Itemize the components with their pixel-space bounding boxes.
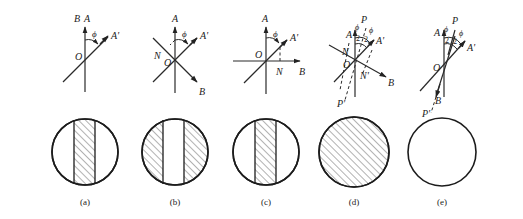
panel-a-vector-diagram: B A ϕ A' O	[63, 13, 120, 92]
panel-b-field-of-view: (b)	[140, 115, 209, 207]
label-n: N	[153, 50, 162, 61]
label-p: P	[360, 14, 367, 25]
label-half-right: 2	[364, 35, 368, 44]
label-phi-right: ϕ	[369, 26, 373, 35]
caption-a: (a)	[80, 197, 90, 207]
label-p: P	[451, 15, 458, 26]
axis-a-prime-arrow	[368, 40, 374, 46]
label-o: O	[433, 62, 440, 73]
label-o: O	[343, 59, 350, 70]
panel-c-field-of-view: (c)	[233, 115, 299, 207]
label-a: A	[171, 13, 179, 24]
label-b: B	[299, 66, 305, 77]
panel-d-field-of-view: (d)	[319, 117, 389, 207]
hatched-band	[255, 115, 276, 190]
label-a-prime: A'	[289, 32, 299, 43]
polarization-diagram-figure: B A ϕ A' O A ϕ A' N O B A ϕ A' O N B	[0, 0, 523, 219]
label-o: O	[75, 51, 82, 62]
label-phi-right: ϕ	[459, 29, 463, 38]
label-phi: ϕ	[182, 29, 187, 39]
caption-c: (c)	[261, 197, 271, 207]
label-a-prime: A'	[199, 30, 209, 41]
label-phi: ϕ	[92, 29, 97, 39]
label-n: N	[275, 66, 284, 77]
angle-arc	[85, 40, 98, 45]
label-a-prime: A'	[110, 30, 120, 41]
caption-d: (d)	[349, 197, 360, 207]
axis-a-prime-line	[420, 41, 465, 91]
label-b: B	[199, 86, 205, 97]
label-a: A	[261, 13, 269, 24]
label-phi-left: ϕ	[355, 23, 359, 32]
label-o: O	[164, 57, 171, 68]
label-phi-left: ϕ	[444, 25, 448, 34]
projection-dash	[170, 40, 175, 45]
label-half-left: 2	[356, 34, 360, 43]
panel-a-field-of-view: (a)	[52, 115, 118, 207]
label-b: B	[74, 13, 80, 24]
panel-e-field-of-view: (e)	[408, 118, 476, 207]
axis-a-prime-arrow	[100, 36, 108, 44]
label-half-right: 2	[453, 37, 457, 46]
caption-b: (b)	[170, 197, 181, 207]
label-o: O	[255, 49, 262, 60]
label-half-left: 2	[445, 36, 449, 45]
angle-arc	[175, 40, 188, 45]
label-a: A	[433, 27, 441, 38]
label-a-prime: A'	[375, 35, 385, 46]
axis-a-prime-arrow	[190, 38, 197, 45]
panel-c-vector-diagram: A ϕ A' O N B	[233, 13, 305, 94]
hatched-left	[140, 115, 163, 190]
axis-a-prime-arrow	[280, 40, 287, 47]
panel-d-vector-diagram: P ϕ ϕ 2 2 A A' N O N' B P'	[329, 14, 394, 109]
axis-b-arrow	[329, 45, 386, 77]
label-phi: ϕ	[273, 29, 278, 39]
hatched-band	[74, 115, 95, 190]
label-b: B	[388, 77, 394, 88]
label-a: A	[345, 29, 353, 40]
label-a: A	[83, 13, 91, 24]
panel-b-vector-diagram: A ϕ A' N O B	[153, 13, 209, 97]
label-p-prime: P'	[336, 98, 346, 109]
label-p-prime: P'	[421, 108, 431, 119]
label-a-prime: A'	[466, 42, 476, 53]
panel-e-vector-diagram: P ϕ ϕ 2 2 A A' O B P'	[420, 15, 476, 119]
label-n-prime: N'	[359, 70, 370, 81]
label-n: N	[341, 46, 350, 57]
caption-e: (e)	[437, 197, 447, 207]
label-b: B	[435, 95, 441, 106]
